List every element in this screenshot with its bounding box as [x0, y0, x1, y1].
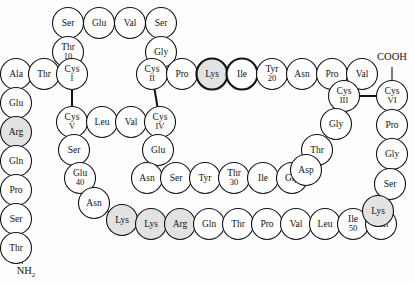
residue-gln-left[interactable]: Gln — [1, 146, 32, 177]
residue-number: 40 — [76, 177, 85, 187]
residue-name: Cys — [65, 112, 80, 122]
residue-number: 20 — [268, 73, 277, 83]
residue-name: Thr — [227, 168, 242, 178]
bond-cys2-cys4 — [155, 89, 158, 106]
residue-lys-b2[interactable]: Lys — [136, 209, 167, 240]
residue-thr-b1[interactable]: Thr — [223, 209, 254, 240]
residue-ser-top2[interactable]: Ser — [146, 8, 177, 39]
residue-name: Val — [125, 117, 138, 127]
residue-name: Asn — [139, 173, 155, 183]
residue-leu-b1[interactable]: Leu — [310, 209, 341, 240]
residue-ile-bold[interactable]: Ile — [227, 59, 258, 90]
residue-name: Cys — [153, 112, 168, 122]
residue-tyr20[interactable]: Tyr20 — [257, 59, 288, 90]
protein-structure-figure: SerGluValSerThr10GlyAlaThrCysICysIIProLy… — [0, 0, 415, 283]
residue-name: Ile — [237, 69, 247, 79]
residue-pro-left[interactable]: Pro — [1, 175, 32, 206]
residue-name: Glu — [9, 98, 24, 108]
residue-ser-m1[interactable]: Ser — [161, 163, 192, 194]
residue-name: Lys — [115, 215, 129, 225]
residue-name: Ala — [9, 69, 24, 79]
residue-name: Thr — [310, 145, 325, 155]
residue-lys-bold[interactable]: Lys — [197, 59, 228, 90]
residue-ser-r1[interactable]: Ser — [375, 169, 406, 200]
residue-val-mid[interactable]: Val — [116, 107, 147, 138]
residue-name: Val — [290, 219, 303, 229]
residue-name: Thr — [61, 42, 76, 52]
residue-pro-top[interactable]: Pro — [167, 59, 198, 90]
residue-tyr-m1[interactable]: Tyr — [190, 163, 221, 194]
n-terminus-label: NH2 — [17, 265, 36, 278]
residue-name: Gly — [329, 119, 344, 129]
residue-ser-c1[interactable]: Ser — [59, 135, 90, 166]
diagram-canvas: SerGluValSerThr10GlyAlaThrCysICysIIProLy… — [0, 0, 415, 283]
residue-asn-m1[interactable]: Asn — [132, 163, 163, 194]
residue-name: Leu — [318, 219, 333, 229]
residue-number: II — [149, 73, 155, 83]
residue-glu-left[interactable]: Glu — [1, 88, 32, 119]
residue-lys-r1[interactable]: Lys — [363, 196, 394, 227]
residue-asn-top[interactable]: Asn — [287, 59, 318, 90]
residue-name: Asn — [86, 198, 102, 208]
residue-leu-mid[interactable]: Leu — [87, 107, 118, 138]
residue-val-top[interactable]: Val — [115, 8, 146, 39]
residue-number: V — [69, 121, 76, 131]
residue-name: Lys — [371, 206, 385, 216]
residue-name: Pro — [325, 69, 338, 79]
residue-name: Thr — [9, 243, 24, 253]
residue-gly-r2[interactable]: Gly — [377, 139, 408, 170]
residue-name: Lys — [205, 69, 219, 79]
residue-thr-left[interactable]: Thr — [29, 59, 60, 90]
residue-name: Ser — [62, 18, 76, 28]
residue-cys6[interactable]: CysVI — [377, 81, 408, 112]
residue-name: Pro — [260, 219, 273, 229]
residue-name: Thr — [37, 69, 52, 79]
residue-name: Gly — [385, 149, 400, 159]
residue-ser-left[interactable]: Ser — [1, 204, 32, 235]
residue-name: Pro — [9, 185, 22, 195]
residue-thr30[interactable]: Thr30 — [219, 163, 250, 194]
residue-ala[interactable]: Ala — [1, 59, 32, 90]
residue-name: Gln — [202, 219, 217, 229]
residue-name: Lys — [144, 219, 158, 229]
residue-name: Thr — [231, 219, 246, 229]
residue-glu-top[interactable]: Glu — [84, 8, 115, 39]
residue-name: Arg — [173, 219, 188, 229]
residue-val-b1[interactable]: Val — [281, 209, 312, 240]
residue-number: 30 — [230, 177, 239, 187]
residue-asn-c1[interactable]: Asn — [79, 188, 110, 219]
residue-name: Glu — [151, 145, 166, 155]
residue-cys5[interactable]: CysV — [57, 107, 88, 138]
residue-name: Pro — [175, 69, 188, 79]
residue-cys3[interactable]: CysIII — [329, 81, 360, 112]
residue-arg-left[interactable]: Arg — [1, 117, 32, 148]
residue-cys2[interactable]: CysII — [137, 59, 168, 90]
residue-name: Ser — [68, 145, 82, 155]
residue-asp-m1[interactable]: Asp — [291, 155, 322, 186]
residue-glu-mid[interactable]: Glu — [143, 135, 174, 166]
residue-name: Ser — [170, 173, 184, 183]
residue-gly-r1[interactable]: Gly — [321, 109, 352, 140]
residue-arg-b1[interactable]: Arg — [165, 209, 196, 240]
residue-number: IV — [156, 121, 166, 131]
residue-name: Val — [356, 69, 369, 79]
residue-name: Arg — [9, 127, 24, 137]
residue-pro-r1[interactable]: Pro — [377, 110, 408, 141]
residue-lys-b1[interactable]: Lys — [107, 205, 138, 236]
residue-name: Glu — [73, 168, 88, 178]
c-terminus-label: COOH — [377, 51, 407, 62]
residue-number: III — [340, 95, 349, 105]
residue-name: Tyr — [198, 173, 212, 183]
residue-ile-m1[interactable]: Ile — [248, 163, 279, 194]
residue-cys1[interactable]: CysI — [57, 59, 88, 90]
residue-pro-b1[interactable]: Pro — [252, 209, 283, 240]
residue-gln-b1[interactable]: Gln — [194, 209, 225, 240]
residue-name: Cys — [145, 64, 160, 74]
residue-name: Gly — [154, 47, 169, 57]
residue-ser-top1[interactable]: Ser — [53, 8, 84, 39]
residue-name: Ser — [10, 214, 24, 224]
residue-cys4[interactable]: CysIV — [145, 107, 176, 138]
residue-name: Leu — [95, 117, 110, 127]
residue-thr-n1[interactable]: Thr — [1, 233, 32, 264]
residue-number: VI — [388, 95, 397, 105]
